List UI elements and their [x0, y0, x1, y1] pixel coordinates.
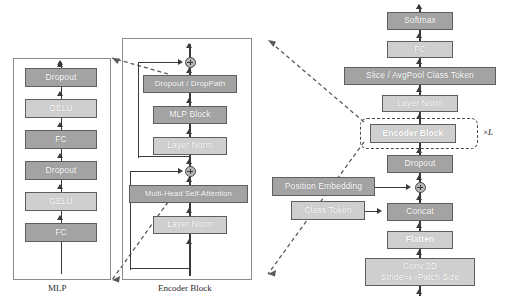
mlp-arrow-to-fc-1 — [57, 215, 63, 220]
vit-arrow-to-concat — [416, 195, 422, 200]
vit-arrow-to-conv2d — [416, 250, 422, 255]
conv2d-stride-suffix: =Patch Size — [413, 272, 460, 282]
encoder-block-layer-norm-1[interactable]: Layer Norm — [153, 216, 227, 234]
encoder-arrow-to-layer-norm-2 — [186, 159, 192, 164]
vit-arrow-to-dropout — [416, 148, 422, 153]
encoder-arrow-to-add-1 — [186, 68, 192, 73]
vit-class-token-arrow — [377, 208, 382, 214]
vit-block-slice-avgpool-class-token[interactable]: Slice / AvgPool Class Token — [344, 67, 496, 85]
vit-side-position-embedding[interactable]: Position Embedding — [272, 177, 375, 196]
mlp-arrow-to-dropout-1 — [57, 153, 63, 158]
mlp-block-fc-1[interactable]: FC — [25, 223, 97, 242]
vit-block-layer-norm[interactable]: Layer Norm — [382, 95, 458, 112]
vit-position-embedding-arrow — [406, 184, 411, 190]
encoder-mlp-residual-add — [185, 57, 196, 68]
encoder-attn-skip-arrow — [178, 168, 183, 174]
encoder-panel-caption: Encoder Block — [158, 283, 212, 293]
encoder-mlp-skip-vertical — [138, 63, 139, 158]
encoder-block-multi-head-self-attention[interactable]: Multi-Head Self-Attention — [129, 185, 248, 203]
mlp-arrow-to-fc-2 — [57, 122, 63, 127]
vit-arrow-to-encoder-block — [416, 114, 422, 119]
encoder-arrow-to-layer-norm-1 — [186, 239, 192, 244]
vit-arrow-to-layer-norm — [416, 87, 422, 92]
conv2d-line-1: Conv 2D — [403, 261, 437, 272]
encoder-attention-residual-add — [185, 166, 196, 177]
encoder-block-layer-norm-2[interactable]: Layer Norm — [153, 137, 227, 155]
mlp-output-arrow — [57, 62, 63, 67]
mlp-arrow-to-gelu-1 — [57, 184, 63, 189]
mlp-arrow-to-gelu-2 — [57, 91, 63, 96]
encoder-block-mlp-block[interactable]: MLP Block — [153, 106, 227, 124]
encoder-mlp-skip-tap — [138, 156, 190, 157]
vit-repeat-count-label: ×L — [483, 127, 493, 137]
mlp-block-dropout-2[interactable]: Dropout — [25, 68, 97, 87]
conv2d-stride-prefix: Stride= — [381, 272, 409, 282]
conv2d-line-2: Stride=k=Patch Size — [381, 272, 460, 283]
mlp-block-fc-2[interactable]: FC — [25, 130, 97, 149]
vit-block-concat[interactable]: Concat — [387, 203, 453, 221]
vit-block-conv2d[interactable]: Conv 2D Stride=k=Patch Size — [365, 258, 475, 286]
vit-side-class-token[interactable]: Class Token — [291, 201, 365, 220]
encoder-arrow-to-add-2 — [186, 177, 192, 182]
vit-input-arrow — [416, 289, 422, 294]
encoder-arrow-to-mlp-block — [186, 129, 192, 134]
vit-architecture-diagram: Dropout GELU FC Dropout GELU FC MLP Drop… — [0, 0, 506, 297]
vit-arrow-to-softmax — [416, 4, 422, 9]
encoder-output-arrow — [186, 43, 192, 48]
encoder-arrow-to-mhsa — [186, 208, 192, 213]
vit-block-softmax[interactable]: Softmax — [387, 12, 453, 30]
encoder-block-dropout-droppath[interactable]: Dropout / DropPath — [143, 75, 237, 93]
mlp-block-dropout-1[interactable]: Dropout — [25, 161, 97, 180]
mlp-block-gelu-2[interactable]: GELU — [25, 99, 97, 118]
vit-block-fc[interactable]: FC — [387, 41, 453, 58]
encoder-attn-skip-tap — [130, 268, 190, 269]
vit-arrow-to-fc — [416, 33, 422, 38]
repeat-count-letter: L — [488, 127, 493, 137]
encoder-arrow-to-dropout — [186, 98, 192, 103]
vit-block-flatten[interactable]: Flatten — [387, 231, 453, 249]
mlp-block-gelu-1[interactable]: GELU — [25, 192, 97, 211]
encoder-mlp-skip-arrow — [178, 59, 183, 65]
vit-position-embedding-wire — [375, 187, 409, 188]
encoder-attn-skip-horizontal — [130, 171, 180, 172]
vit-position-add-node — [415, 182, 426, 193]
vit-block-encoder-block[interactable]: Encoder Block — [370, 124, 456, 143]
vit-arrow-to-slice-avgpool — [416, 59, 422, 64]
vit-arrow-to-position-add — [416, 175, 422, 180]
vit-arrow-to-flatten — [416, 223, 422, 228]
vit-block-dropout[interactable]: Dropout — [387, 155, 453, 173]
mlp-panel-caption: MLP — [48, 283, 67, 293]
encoder-mlp-skip-horizontal — [138, 62, 180, 63]
